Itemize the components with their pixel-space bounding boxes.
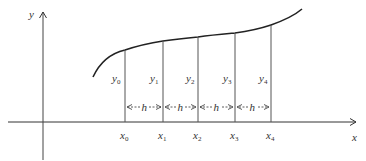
abscissa-label-4: x4	[265, 129, 275, 143]
ordinate-label-1: y1	[149, 72, 159, 86]
ordinate-labels: y0 y1 y2 y3 y4	[111, 72, 268, 86]
ordinate-label-2: y2	[185, 72, 195, 86]
ordinate-label-0: y0	[111, 72, 121, 86]
y-axis-label: y	[28, 8, 34, 20]
h-label-3: h	[250, 101, 256, 113]
x-axis-label: x	[351, 131, 357, 143]
ordinate-label-4: y4	[258, 72, 268, 86]
abscissa-label-0: x0	[119, 129, 129, 143]
ordinate-label-3: y3	[222, 72, 232, 86]
diagram-canvas: h h h h y x y0 y1 y2 y3 y4 x0 x1 x2 x3 x…	[0, 0, 366, 161]
abscissa-label-1: x1	[157, 129, 167, 143]
h-label-2: h	[214, 101, 220, 113]
abscissa-labels: x0 x1 x2 x3 x4	[119, 129, 275, 143]
h-label-0: h	[142, 101, 148, 113]
axes	[8, 12, 356, 160]
abscissa-label-2: x2	[192, 129, 202, 143]
abscissa-label-3: x3	[229, 129, 239, 143]
h-label-1: h	[178, 101, 184, 113]
